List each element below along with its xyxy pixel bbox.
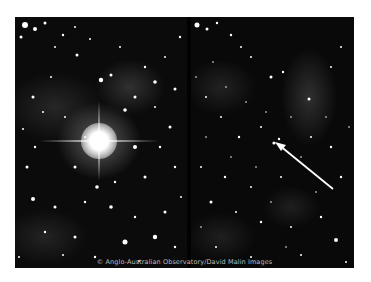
after-panel — [191, 17, 354, 268]
arrow-pointer — [191, 17, 354, 268]
star-core — [81, 123, 117, 159]
photo-comparison: © Anglo-Australian Observatory/David Mal… — [15, 17, 354, 268]
photo-credit: © Anglo-Australian Observatory/David Mal… — [15, 258, 354, 266]
before-panel — [15, 17, 187, 268]
